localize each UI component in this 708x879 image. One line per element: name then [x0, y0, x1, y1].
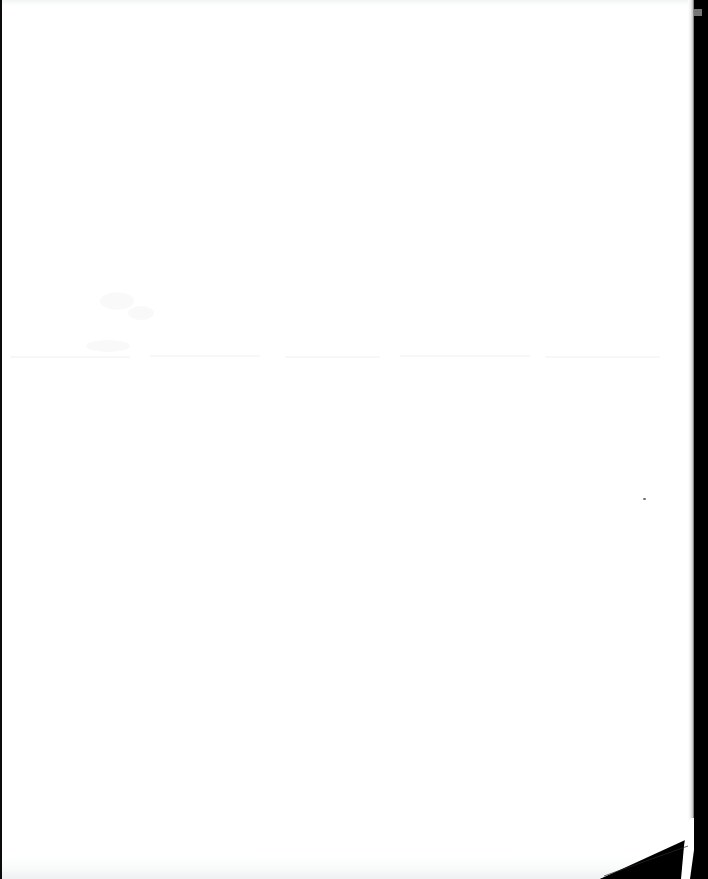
- right-band-notch: [693, 9, 702, 16]
- right-scanner-void-band: [694, 0, 708, 879]
- paper-top-edge: [0, 0, 694, 6]
- scanned-page-canvas: [0, 0, 708, 879]
- paper-bottom-edge: [0, 857, 694, 879]
- left-scanner-margin: [0, 0, 2, 879]
- paper-sheet: [0, 0, 694, 879]
